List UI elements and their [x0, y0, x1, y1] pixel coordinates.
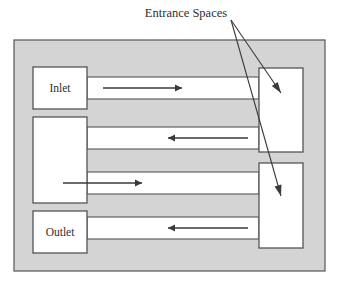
middle-box-rect — [33, 117, 87, 203]
inlet-box: Inlet — [33, 67, 87, 109]
flow-diagram: InletOutlet Entrance Spaces — [0, 0, 340, 285]
inlet-box-label: Inlet — [49, 82, 71, 94]
lower-entrance-space — [259, 163, 303, 248]
outlet-box: Outlet — [33, 211, 87, 253]
diagram-canvas: InletOutlet Entrance Spaces — [0, 0, 340, 285]
left-box-layer: InletOutlet — [33, 67, 87, 253]
lower-entrance-space-rect — [259, 163, 303, 248]
outlet-box-label: Outlet — [46, 226, 76, 238]
callout-label: Entrance Spaces — [145, 6, 227, 20]
upper-entrance-space — [259, 68, 303, 152]
middle-box — [33, 117, 87, 203]
upper-entrance-space-rect — [259, 68, 303, 152]
